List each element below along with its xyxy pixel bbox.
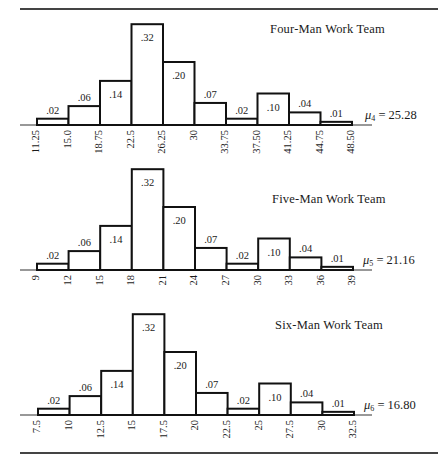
histogram-bar: [70, 396, 102, 415]
bar-value-label: .07: [205, 379, 218, 390]
bar-value-label: .01: [332, 398, 345, 409]
bar-value-label: .02: [237, 395, 250, 406]
bottom-rule: [20, 452, 438, 454]
x-tick-label: 32.5: [347, 420, 358, 438]
bar-value-label: .02: [47, 395, 60, 406]
bar-value-label: .14: [110, 379, 124, 390]
x-tick-label: 30: [316, 420, 327, 431]
bar-value-label: .06: [79, 382, 92, 393]
x-tick-label: 12.5: [95, 420, 106, 438]
histogram-plot: .02.06.14.32.20.07.02.10.04.017.51012.51…: [0, 0, 438, 458]
x-tick-label: 22.5: [221, 420, 232, 438]
x-tick-label: 25: [253, 420, 264, 431]
chart-title: Six-Man Work Team: [275, 318, 383, 333]
histogram-six-man: .02.06.14.32.20.07.02.10.04.017.51012.51…: [0, 0, 438, 458]
x-tick-label: 15: [126, 420, 137, 431]
x-tick-label: 17.5: [158, 420, 169, 438]
x-tick-label: 20: [189, 420, 200, 431]
bar-value-label: .04: [300, 388, 314, 399]
histogram-bar: [322, 412, 354, 415]
bar-value-label: .10: [268, 392, 281, 403]
histogram-bar: [196, 393, 228, 415]
bar-value-label: .32: [142, 322, 155, 333]
x-tick-label: 10: [63, 420, 74, 431]
x-tick-label: 7.5: [31, 420, 42, 433]
histogram-bar: [228, 409, 260, 415]
histogram-bar: [101, 371, 133, 415]
mean-label: μ6 = 16.80: [364, 398, 416, 413]
mean-value: = 16.80: [374, 398, 415, 412]
histogram-bar: [291, 402, 323, 415]
bar-value-label: .20: [174, 360, 187, 371]
x-tick-label: 27.5: [284, 420, 295, 438]
histogram-bar: [38, 409, 70, 415]
